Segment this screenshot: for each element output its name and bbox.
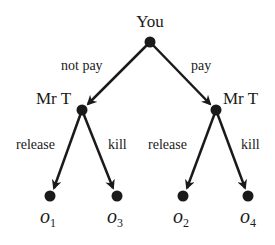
leaf-node-o3 [112,191,123,202]
edge-label-left-kill: kill [108,137,127,152]
edge-label-right-release: release [148,137,187,152]
edge-label-left-release: release [16,137,55,152]
game-tree-svg: You Mr T Mr T not pay pay release kill r… [0,0,275,245]
leaf-node-o2 [178,191,189,202]
edge-label-not-pay: not pay [61,58,103,73]
left-player-label: Mr T [36,89,72,108]
outcome-label-o1: o1 [40,205,56,230]
outcome-label-o3: o3 [107,205,123,230]
right-player-label: Mr T [223,89,259,108]
outcome-label-o2: o2 [173,205,189,230]
edge-left-release [54,110,82,188]
root-player-label: You [136,12,164,31]
left-decision-node [77,105,88,116]
outcome-label-o4: o4 [240,205,256,230]
edge-not-pay [88,42,150,104]
leaf-node-o4 [243,191,254,202]
right-decision-node [211,105,222,116]
game-tree-diagram: You Mr T Mr T not pay pay release kill r… [0,0,275,245]
leaf-node-o1 [45,191,56,202]
edge-label-pay: pay [191,58,211,73]
edge-right-release [187,110,216,188]
edge-pay [150,42,210,104]
root-node [145,37,156,48]
edge-label-right-kill: kill [241,137,260,152]
